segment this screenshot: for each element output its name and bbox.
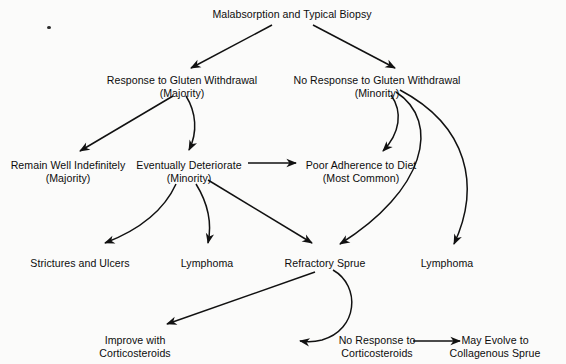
- edge-response-to-remainwell: [80, 96, 173, 151]
- node-refractory-line1: Refractory Sprue: [285, 257, 366, 270]
- node-improve-with-corticosteroids: Improve with Corticosteroids: [99, 334, 170, 360]
- scan-speck-large: [47, 26, 51, 29]
- node-lymphoma-right: Lymphoma: [421, 257, 473, 270]
- node-may-evolve-to-collagenous-sprue: May Evolve to Collagenous Sprue: [450, 334, 541, 360]
- node-response-gluten-withdrawal: Response to Gluten Withdrawal (Majority): [107, 74, 257, 100]
- node-lymphoma-mid-line1: Lymphoma: [181, 257, 233, 270]
- node-root-line1: Malabsorption and Typical Biopsy: [212, 8, 371, 21]
- node-improve-line1: Improve with: [99, 334, 170, 347]
- edge-deteriorate-to-refractory: [208, 180, 312, 243]
- edge-deteriorate-to-strictures: [105, 184, 176, 243]
- node-no-response-gluten-withdrawal: No Response to Gluten Withdrawal (Minori…: [293, 74, 460, 100]
- edge-refractory-to-nocortico: [300, 270, 352, 342]
- node-remainwell-line2: (Majority): [11, 172, 126, 185]
- node-remain-well-indefinitely: Remain Well Indefinitely (Majority): [11, 159, 126, 185]
- node-pooradherence-line2: (Most Common): [306, 172, 417, 185]
- node-no-response-to-corticosteroids: No Response to Corticosteroids: [339, 334, 416, 360]
- node-nocortico-line1: No Response to: [339, 334, 416, 347]
- edge-response-to-deteriorate: [186, 96, 195, 150]
- node-lymphoma-middle: Lymphoma: [181, 257, 233, 270]
- node-poor-adherence-to-diet: Poor Adherence to Diet (Most Common): [306, 159, 417, 185]
- edge-refractory-to-improve: [167, 272, 315, 324]
- node-response-line2: (Majority): [107, 87, 257, 100]
- node-root: Malabsorption and Typical Biopsy: [212, 8, 371, 21]
- node-noresponse-line1: No Response to Gluten Withdrawal: [293, 74, 460, 87]
- node-pooradherence-line1: Poor Adherence to Diet: [306, 159, 417, 172]
- node-response-line1: Response to Gluten Withdrawal: [107, 74, 257, 87]
- node-eventually-deteriorate: Eventually Deteriorate (Minority): [136, 159, 241, 185]
- node-collagenous-line2: Collagenous Sprue: [450, 347, 541, 360]
- flowchart-canvas: Malabsorption and Typical Biopsy Respons…: [0, 0, 566, 364]
- node-collagenous-line1: May Evolve to: [450, 334, 541, 347]
- edge-noresponse-to-pooradherence: [383, 95, 398, 151]
- node-strictures-and-ulcers: Strictures and Ulcers: [30, 257, 129, 270]
- edge-root-to-response: [191, 25, 272, 68]
- edge-deteriorate-to-lymphoma-mid: [196, 184, 210, 243]
- edge-root-to-noresponse: [313, 25, 395, 68]
- node-refractory-sprue: Refractory Sprue: [285, 257, 366, 270]
- node-deteriorate-line2: (Minority): [136, 172, 241, 185]
- node-deteriorate-line1: Eventually Deteriorate: [136, 159, 241, 172]
- node-improve-line2: Corticosteroids: [99, 347, 170, 360]
- node-noresponse-line2: (Minority): [293, 87, 460, 100]
- node-strictures-line1: Strictures and Ulcers: [30, 257, 129, 270]
- node-remainwell-line1: Remain Well Indefinitely: [11, 159, 126, 172]
- node-lymphoma-right-line1: Lymphoma: [421, 257, 473, 270]
- node-nocortico-line2: Corticosteroids: [339, 347, 416, 360]
